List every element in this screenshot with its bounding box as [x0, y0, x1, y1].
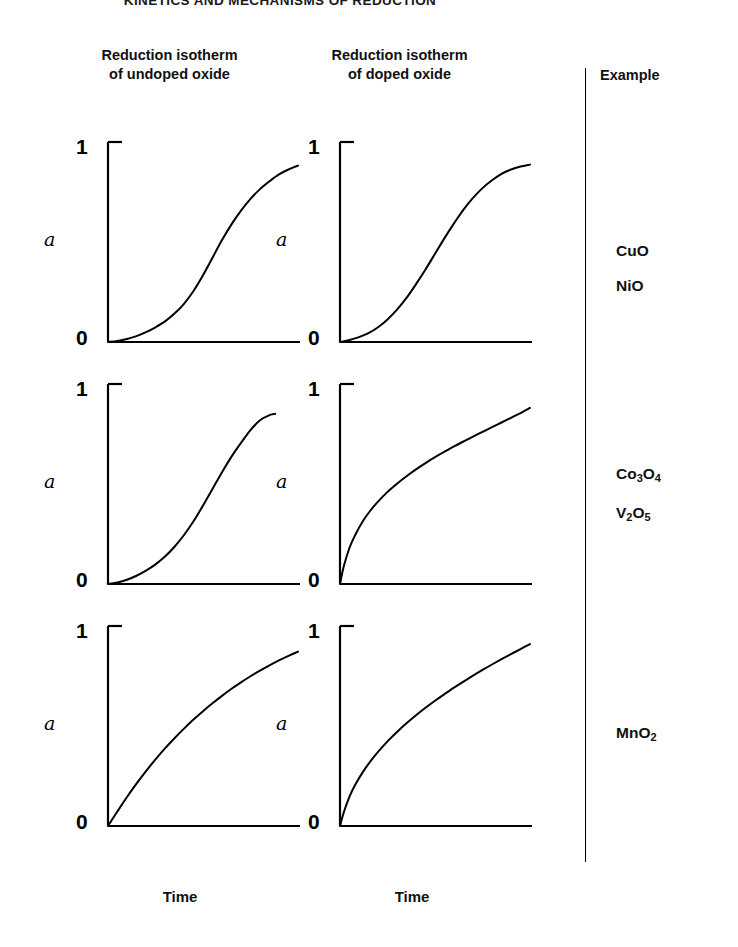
example-row1-nio: NiO	[616, 278, 644, 294]
y-axis-min-label: 0	[76, 811, 88, 832]
y-axis-title: a	[44, 714, 55, 733]
y-axis-min-label: 0	[76, 327, 88, 348]
y-axis-max-label: 1	[76, 620, 88, 641]
isotherm-curve	[108, 166, 298, 342]
plot-panel-row1-undoped: 1 0 a	[60, 130, 300, 360]
plot-svg-row2-doped	[292, 372, 532, 602]
y-axis-title: a	[276, 472, 287, 491]
y-axis-max-label: 1	[308, 378, 320, 399]
x-axis-title-left: Time	[110, 888, 250, 905]
example-row3-mno2: MnO2	[616, 725, 657, 741]
plot-svg-row3-doped	[292, 614, 532, 844]
plot-svg-row1-undoped	[60, 130, 300, 360]
x-axis-title-right: Time	[342, 888, 482, 905]
y-axis-title: a	[44, 230, 55, 249]
y-axis-min-label: 0	[308, 811, 320, 832]
column-header-example: Example	[600, 66, 730, 85]
isotherm-curve	[340, 408, 530, 584]
column-header-undoped: Reduction isotherm of undoped oxide	[62, 46, 277, 85]
y-axis-max-label: 1	[76, 378, 88, 399]
example-row2-co3o4: Co3O4	[616, 466, 661, 482]
y-axis-title: a	[276, 230, 287, 249]
plot-panel-row1-doped: 1 0 a	[292, 130, 532, 360]
isotherm-curve	[340, 165, 530, 342]
example-row1-cuo: CuO	[616, 243, 649, 259]
column-header-doped-line1: Reduction isotherm	[292, 46, 507, 65]
plot-panel-row2-undoped: 1 0 a	[60, 372, 300, 602]
y-axis-max-label: 1	[76, 136, 88, 157]
y-axis-max-label: 1	[308, 136, 320, 157]
plot-panel-row3-doped: 1 0 a	[292, 614, 532, 844]
example-row2-v2o5: V2O5	[616, 505, 651, 521]
column-header-doped: Reduction isotherm of doped oxide	[292, 46, 507, 85]
column-header-undoped-line2: of undoped oxide	[62, 65, 277, 84]
y-axis-min-label: 0	[76, 569, 88, 590]
y-axis-min-label: 0	[308, 569, 320, 590]
isotherm-curve	[108, 414, 275, 584]
column-header-doped-line2: of doped oxide	[292, 65, 507, 84]
y-axis-min-label: 0	[308, 327, 320, 348]
column-header-undoped-line1: Reduction isotherm	[62, 46, 277, 65]
y-axis-title: a	[276, 714, 287, 733]
plot-svg-row1-doped	[292, 130, 532, 360]
isotherm-curve	[340, 644, 530, 826]
plot-svg-row3-undoped	[60, 614, 300, 844]
plot-panel-row3-undoped: 1 0 a	[60, 614, 300, 844]
running-head: KINETICS AND MECHANISMS OF REDUCTION	[0, 0, 560, 8]
y-axis-title: a	[44, 472, 55, 491]
plot-panel-row2-doped: 1 0 a	[292, 372, 532, 602]
y-axis-max-label: 1	[308, 620, 320, 641]
isotherm-curve	[108, 652, 298, 826]
column-divider	[585, 68, 586, 862]
plot-svg-row2-undoped	[60, 372, 300, 602]
